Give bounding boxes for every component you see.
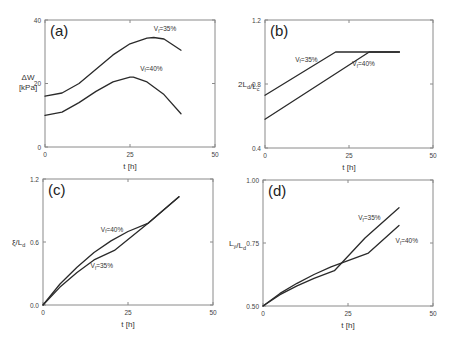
- series-line-vf35: [265, 52, 399, 95]
- x-tick-label: 50: [211, 151, 219, 158]
- x-tick-label: 50: [429, 310, 437, 317]
- y-tick-label: 0.6: [30, 239, 39, 246]
- series-annotation: Vf=40%: [396, 237, 419, 246]
- panel-label: (b): [270, 22, 288, 39]
- y-tick-label: 1.00: [246, 177, 259, 184]
- series-line-vf40: [43, 197, 179, 305]
- panel-label: (c): [48, 181, 66, 198]
- y-tick-label: 0.0: [30, 302, 39, 309]
- x-tick-label: 25: [344, 310, 352, 317]
- x-tick-label: 25: [345, 152, 353, 159]
- x-tick-label: 0: [263, 152, 267, 159]
- y-tick-label: 0: [37, 144, 41, 151]
- panel-label: (a): [50, 22, 68, 39]
- y-tick-label: 40: [34, 17, 42, 24]
- series-annotation: Vf=40%: [101, 226, 124, 235]
- y-tick-label: 0.75: [246, 240, 259, 247]
- y-axis-label: Ly/Ld: [229, 239, 246, 251]
- x-tick-label: 0: [41, 309, 45, 316]
- x-axis-label: t [h]: [121, 320, 134, 329]
- panel-a: 0255002040t [h]ΔW[kPa](a)Vf=35%Vf=40%: [19, 17, 219, 172]
- x-axis-label: t [h]: [342, 163, 355, 172]
- series-annotation: Vf=35%: [91, 262, 114, 271]
- y-axis-label: ξ/Ld: [12, 238, 25, 248]
- x-tick-label: 50: [209, 309, 217, 316]
- y-tick-label: 1.2: [252, 17, 261, 24]
- y-tick-label: 1.2: [30, 176, 39, 183]
- series-annotation: Vf=35%: [295, 56, 318, 65]
- axes-frame: [45, 20, 215, 147]
- panel-b: 025500.40.81.2t [h]2Ld/Lc(b)Vf=35%Vf=40%: [238, 17, 437, 173]
- x-axis-label: t [h]: [123, 162, 136, 171]
- x-tick-label: 0: [261, 310, 265, 317]
- x-axis-label: t [h]: [341, 321, 354, 330]
- x-tick-label: 25: [126, 151, 134, 158]
- series-annotation: Vf=40%: [352, 60, 375, 69]
- series-line-vf40: [263, 225, 399, 306]
- x-tick-label: 25: [124, 309, 132, 316]
- x-tick-label: 0: [43, 151, 47, 158]
- panel-c: 025500.00.61.2t [h]ξ/Ld(c)Vf=40%Vf=35%: [12, 176, 217, 330]
- y-axis-label: 2Ld/Lc: [238, 80, 260, 92]
- series-line-vf40: [265, 52, 399, 119]
- figure: 0255002040t [h]ΔW[kPa](a)Vf=35%Vf=40% 02…: [0, 0, 453, 343]
- y-axis-label: ΔW: [22, 73, 35, 82]
- series-annotation: Vf=40%: [140, 65, 163, 74]
- series-line-vf35: [43, 197, 179, 305]
- series-annotation: Vf=35%: [154, 25, 177, 34]
- panel-d: 025500.500.751.00t [h]Ly/Ld(d)Vf=35%Vf=4…: [229, 177, 437, 331]
- y-axis-label-unit: [kPa]: [19, 83, 37, 92]
- series-annotation: Vf=35%: [358, 214, 381, 223]
- y-tick-label: 0.50: [246, 303, 259, 310]
- axes-frame: [265, 20, 433, 148]
- panel-label: (d): [268, 182, 286, 199]
- axes-frame: [43, 179, 213, 305]
- series-line-vf40: [45, 77, 181, 115]
- x-tick-label: 50: [429, 152, 437, 159]
- y-tick-label: 0.4: [252, 145, 261, 152]
